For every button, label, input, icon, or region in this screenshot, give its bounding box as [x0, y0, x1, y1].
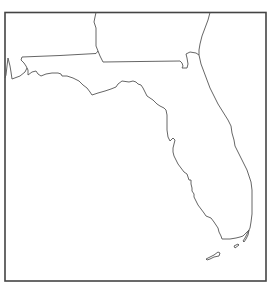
alabama-georgia-border	[94, 13, 103, 63]
map-frame	[5, 13, 266, 282]
florida-keys-middle	[234, 244, 239, 248]
georgia-florida-border	[103, 52, 199, 68]
alabama-florida-border	[22, 51, 98, 57]
florida-coastline	[5, 55, 252, 239]
georgia-south-carolina-border	[199, 13, 210, 56]
florida-keys-lower	[206, 252, 220, 260]
florida-outline-map	[0, 0, 269, 288]
pensacola-bay	[21, 57, 27, 68]
florida-keys-upper	[243, 230, 249, 242]
